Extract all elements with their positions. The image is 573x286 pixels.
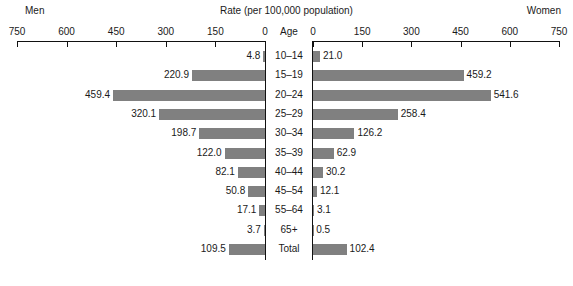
bar-men [159,109,265,120]
right-axis-tick-label: 600 [501,26,518,37]
bar-women [313,109,398,120]
right-axis-tick-label: 450 [452,26,469,37]
bar-women [313,167,323,178]
left-axis-tick-label: 600 [58,26,75,37]
age-group-label: 35–39 [265,146,313,159]
chart-row: 17.155–643.1 [0,201,573,220]
bar-men [225,148,265,159]
women-axis-label: Women [527,5,561,16]
left-axis-tick-label: 0 [262,26,268,37]
bar-women [313,51,320,62]
value-label-men: 198.7 [171,126,196,139]
value-label-men: 82.1 [215,165,234,178]
chart-row: 4.810–1421.0 [0,47,573,66]
bar-women [313,205,314,216]
chart-title: Rate (per 100,000 population) [0,5,573,16]
population-pyramid-chart: Men Rate (per 100,000 population) Women … [0,0,573,286]
age-group-label: 10–14 [265,49,313,62]
value-label-men: 50.8 [226,184,245,197]
chart-row: 220.915–19459.2 [0,66,573,85]
value-label-women: 30.2 [326,165,345,178]
bar-women [313,128,354,139]
value-label-men: 3.7 [247,223,261,236]
age-group-label: 15–19 [265,68,313,81]
age-group-label: 30–34 [265,126,313,139]
bar-women [313,244,347,255]
value-label-women: 12.1 [320,184,339,197]
bar-women [313,148,334,159]
value-label-men: 4.8 [247,49,261,62]
value-label-women: 21.0 [323,49,342,62]
value-label-men: 220.9 [164,68,189,81]
value-label-men: 122.0 [197,146,222,159]
left-axis-tick-label: 150 [207,26,224,37]
chart-row: 109.5Total102.4 [0,240,573,259]
right-axis-line [312,41,559,42]
chart-row: 82.140–4430.2 [0,163,573,182]
bar-women [313,90,491,101]
age-group-label: 65+ [265,223,313,236]
age-group-label: Total [265,242,313,255]
bar-men [192,70,265,81]
left-axis-tick-label: 300 [157,26,174,37]
right-axis-tick-label: 750 [551,26,568,37]
bar-women [313,225,314,236]
left-axis-line [17,41,266,42]
age-group-label: 40–44 [265,165,313,178]
age-group-label: 25–29 [265,107,313,120]
left-axis-tick-label: 750 [9,26,26,37]
value-label-men: 320.1 [131,107,156,120]
chart-row: 198.730–34126.2 [0,124,573,143]
age-column-header: Age [280,26,298,37]
value-label-men: 17.1 [237,203,256,216]
age-group-label: 20–24 [265,88,313,101]
chart-row: 50.845–5412.1 [0,182,573,201]
value-label-women: 0.5 [316,223,330,236]
bar-men [199,128,265,139]
bar-women [313,70,464,81]
left-axis-tick-label: 450 [108,26,125,37]
chart-row: 459.420–24541.6 [0,86,573,105]
value-label-men: 459.4 [85,88,110,101]
value-label-women: 62.9 [337,146,356,159]
value-label-men: 109.5 [201,242,226,255]
right-axis-tick-label: 300 [403,26,420,37]
right-axis-tick-label: 150 [354,26,371,37]
chart-row: 122.035–3962.9 [0,144,573,163]
chart-row: 3.765+0.5 [0,221,573,240]
bar-women [313,186,317,197]
bar-men [229,244,265,255]
right-axis-tick-label: 0 [310,26,316,37]
age-group-label: 55–64 [265,203,313,216]
value-label-women: 126.2 [357,126,382,139]
chart-row: 320.125–29258.4 [0,105,573,124]
age-group-label: 45–54 [265,184,313,197]
value-label-women: 102.4 [350,242,375,255]
bar-men [238,167,265,178]
value-label-women: 258.4 [401,107,426,120]
value-label-women: 541.6 [494,88,519,101]
value-label-women: 3.1 [317,203,331,216]
bar-men [113,90,265,101]
bar-men [248,186,265,197]
value-label-women: 459.2 [467,68,492,81]
